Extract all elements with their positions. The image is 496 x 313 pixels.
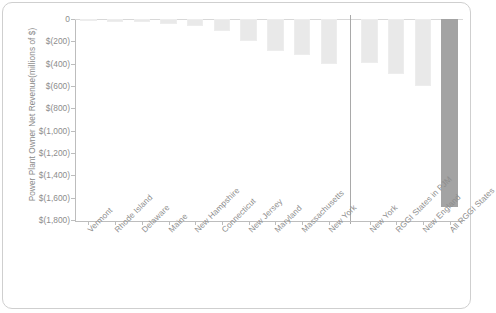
bar: [361, 19, 378, 63]
bar: [240, 19, 257, 41]
bar: [321, 19, 338, 64]
bar: [80, 19, 97, 21]
plot-area: [75, 19, 463, 220]
bar: [267, 19, 284, 51]
y-tick-label: $(1,800): [0, 215, 70, 225]
bar: [134, 19, 151, 22]
bar: [107, 19, 124, 22]
y-tick-label: $(1,200): [0, 148, 70, 158]
bar: [187, 19, 204, 26]
bar: [214, 19, 231, 31]
y-tick-label: $(1,400): [0, 170, 70, 180]
y-tick-label: $(400): [0, 59, 70, 69]
y-tick-label: $(200): [0, 36, 70, 46]
bar: [160, 19, 177, 24]
y-tick-label: $(800): [0, 103, 70, 113]
y-tick-label: $(1,000): [0, 126, 70, 136]
bar: [388, 19, 405, 74]
group-separator: [350, 15, 351, 224]
y-tick-label: $(1,600): [0, 193, 70, 203]
y-tick-label: 0: [0, 14, 70, 24]
bar: [294, 19, 311, 55]
y-tick-label: $(600): [0, 81, 70, 91]
bar: [415, 19, 432, 86]
